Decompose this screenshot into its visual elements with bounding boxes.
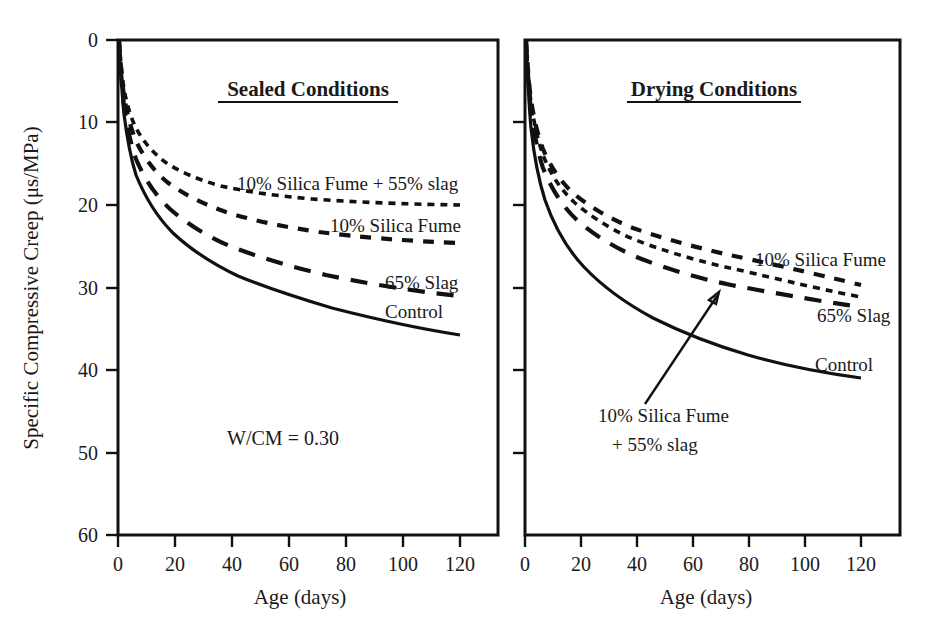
x-tick-label-drying-120: 120 bbox=[846, 553, 876, 575]
series-label-sealed-slag: 65% Slag bbox=[385, 272, 459, 293]
creep-figure: 0 10 20 30 40 50 60 Specific Compressive… bbox=[0, 0, 946, 631]
y-axis-ticks-sealed bbox=[106, 40, 118, 535]
annotation-label-line2: + 55% slag bbox=[612, 434, 698, 455]
curve-sealed-silica-fume bbox=[119, 41, 460, 243]
x-tick-label-drying-60: 60 bbox=[683, 553, 703, 575]
series-label-drying-silica-fume: 10% Silica Fume bbox=[755, 249, 886, 270]
panel-title-sealed: Sealed Conditions bbox=[227, 77, 389, 101]
y-axis-ticks-drying bbox=[513, 122, 525, 453]
y-tick-label-40: 40 bbox=[78, 359, 98, 381]
series-label-drying-control: Control bbox=[815, 354, 873, 375]
series-label-sealed-silica-slag: 10% Silica Fume + 55% slag bbox=[237, 173, 459, 194]
x-tick-label-sealed-40: 40 bbox=[222, 553, 242, 575]
x-tick-label-drying-100: 100 bbox=[790, 553, 820, 575]
x-axis-ticks-sealed bbox=[118, 535, 460, 547]
x-tick-label-drying-40: 40 bbox=[627, 553, 647, 575]
y-tick-label-20: 20 bbox=[78, 194, 98, 216]
x-tick-label-sealed-100: 100 bbox=[388, 553, 418, 575]
y-tick-label-30: 30 bbox=[78, 277, 98, 299]
series-label-sealed-silica-fume: 10% Silica Fume bbox=[330, 215, 461, 236]
y-tick-label-0: 0 bbox=[88, 29, 98, 51]
annotation-label-line1: 10% Silica Fume bbox=[598, 405, 729, 426]
x-axis-title-drying: Age (days) bbox=[660, 585, 753, 609]
y-tick-label-10: 10 bbox=[78, 111, 98, 133]
x-tick-label-sealed-0: 0 bbox=[113, 553, 123, 575]
figure-svg: 0 10 20 30 40 50 60 Specific Compressive… bbox=[0, 0, 946, 631]
plot-frame-drying bbox=[525, 40, 900, 535]
wcm-note: W/CM = 0.30 bbox=[227, 427, 339, 449]
y-tick-label-60: 60 bbox=[78, 524, 98, 546]
x-tick-label-sealed-80: 80 bbox=[336, 553, 356, 575]
annotation-arrow-silica-slag bbox=[645, 292, 719, 404]
x-tick-label-drying-80: 80 bbox=[739, 553, 759, 575]
series-label-sealed-control: Control bbox=[385, 301, 443, 322]
y-tick-label-50: 50 bbox=[78, 442, 98, 464]
x-tick-label-sealed-60: 60 bbox=[279, 553, 299, 575]
series-label-drying-slag: 65% Slag bbox=[817, 305, 891, 326]
panel-title-drying: Drying Conditions bbox=[631, 77, 797, 101]
panel-sealed: 0 10 20 30 40 50 60 Specific Compressive… bbox=[19, 29, 498, 609]
x-tick-label-drying-0: 0 bbox=[520, 553, 530, 575]
y-axis-title: Specific Compressive Creep (μs/MPa) bbox=[19, 126, 43, 449]
x-tick-label-sealed-120: 120 bbox=[445, 553, 475, 575]
x-axis-ticks-drying bbox=[525, 535, 861, 547]
x-tick-label-drying-20: 20 bbox=[571, 553, 591, 575]
x-axis-title-sealed: Age (days) bbox=[254, 585, 347, 609]
panel-drying: 0 20 40 60 80 100 120 Age (days) Drying … bbox=[513, 40, 900, 609]
x-tick-label-sealed-20: 20 bbox=[165, 553, 185, 575]
